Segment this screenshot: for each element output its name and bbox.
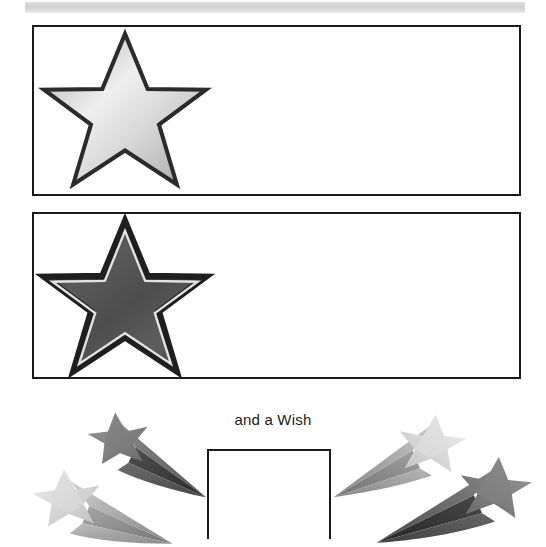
header-band	[25, 2, 525, 13]
shooting-star-icon	[372, 455, 546, 547]
star-icon	[44, 218, 206, 376]
wish-box[interactable]	[207, 449, 331, 539]
caption-text: and a Wish	[234, 411, 311, 428]
shooting-star-icon	[10, 466, 180, 546]
star-icon	[44, 30, 206, 190]
